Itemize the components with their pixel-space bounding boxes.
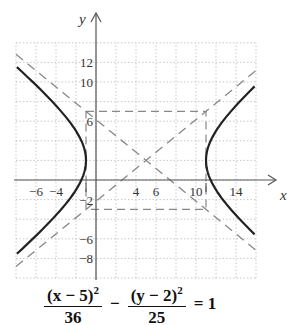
x-tick-label: 6 <box>153 184 160 199</box>
hyperbola-equation: (x − 5)2 36 − (y − 2)2 25 = 1 <box>40 280 220 325</box>
y-tick-label: 10 <box>80 75 93 90</box>
x-axis-label: x <box>279 187 287 203</box>
x-tick-label: 4 <box>133 184 140 199</box>
y-tick-label: −2 <box>79 193 93 208</box>
y-tick-label: −8 <box>79 251 93 266</box>
minus-sign: − <box>110 294 120 314</box>
x-tick-label: −4 <box>49 184 63 199</box>
equals-one: = 1 <box>194 294 216 314</box>
x-tick-label: −6 <box>29 184 43 199</box>
x-tick-label: 14 <box>230 184 244 199</box>
axes <box>14 13 276 280</box>
grid <box>16 43 256 278</box>
fraction-y: (y − 2)2 25 <box>128 280 186 325</box>
y-axis-label: y <box>77 11 86 27</box>
y-tick-label: −6 <box>79 232 93 247</box>
term2-denominator: 25 <box>148 307 165 325</box>
term1-denominator: 36 <box>65 307 82 325</box>
y-tick-label: 12 <box>80 55 93 70</box>
y-tick-label: 6 <box>87 114 94 129</box>
term1-numerator: (x − 5) <box>47 286 94 305</box>
term2-numerator: (y − 2) <box>131 286 178 305</box>
x-tick-label: 10 <box>190 184 203 199</box>
hyperbola-chart: −6−446101412106−2−6−8 x y <box>0 0 306 325</box>
fraction-x: (x − 5)2 36 <box>44 280 102 325</box>
